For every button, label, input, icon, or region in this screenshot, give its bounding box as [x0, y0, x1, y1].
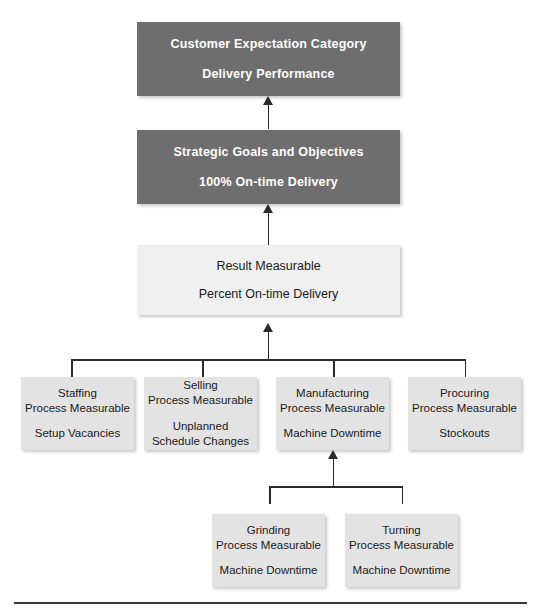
- node-process-procuring-type: Process Measurable: [412, 401, 517, 416]
- diagram-canvas: Customer Expectation Category Delivery P…: [0, 0, 541, 614]
- node-process-grinding[interactable]: Grinding Process Measurable Machine Down…: [212, 514, 325, 587]
- node-process-manufacturing-function: Manufacturing: [280, 386, 385, 401]
- node-process-staffing[interactable]: Staffing Process Measurable Setup Vacanc…: [21, 377, 134, 450]
- connector-drop-procuring: [465, 359, 467, 377]
- node-process-selling-measure-cont: Schedule Changes: [152, 434, 249, 449]
- node-process-procuring[interactable]: Procuring Process Measurable Stockouts: [408, 377, 521, 450]
- connector-line-processes-to-result: [268, 331, 270, 360]
- arrow-up-icon-subprocess-to-manufacturing: [328, 450, 338, 459]
- node-customer-expectation-label: Customer Expectation Category: [170, 36, 366, 53]
- node-result-measurable[interactable]: Result Measurable Percent On-time Delive…: [137, 245, 400, 315]
- connector-line-result-to-strategic: [268, 212, 270, 245]
- node-customer-expectation[interactable]: Customer Expectation Category Delivery P…: [137, 22, 400, 96]
- node-process-selling-type: Process Measurable: [148, 393, 253, 408]
- connector-drop-selling: [202, 359, 204, 377]
- node-strategic-goals-value: 100% On-time Delivery: [199, 174, 338, 191]
- node-process-turning-measure: Machine Downtime: [353, 563, 451, 578]
- connector-drop-grinding: [269, 486, 271, 504]
- arrow-up-icon-processes-to-result: [263, 323, 273, 332]
- connector-bus-subprocess-row: [269, 486, 403, 488]
- node-process-staffing-function: Staffing: [25, 386, 130, 401]
- node-process-manufacturing[interactable]: Manufacturing Process Measurable Machine…: [276, 377, 389, 450]
- node-process-manufacturing-type: Process Measurable: [280, 401, 385, 416]
- footer-divider: [14, 602, 527, 604]
- node-process-staffing-type: Process Measurable: [25, 401, 130, 416]
- node-process-selling[interactable]: Selling Process Measurable Unplanned Sch…: [144, 377, 257, 450]
- connector-line-strategic-to-customer: [268, 104, 270, 129]
- connector-drop-staffing: [71, 359, 73, 377]
- node-process-turning-function: Turning: [349, 523, 454, 538]
- node-process-grinding-type: Process Measurable: [216, 538, 321, 553]
- connector-drop-manufacturing: [333, 359, 335, 377]
- node-process-grinding-measure: Machine Downtime: [220, 563, 318, 578]
- node-process-procuring-function: Procuring: [412, 386, 517, 401]
- node-process-turning[interactable]: Turning Process Measurable Machine Downt…: [345, 514, 458, 587]
- node-process-selling-function: Selling: [148, 378, 253, 393]
- node-process-procuring-measure: Stockouts: [439, 426, 490, 441]
- node-result-measurable-value: Percent On-time Delivery: [199, 286, 339, 303]
- connector-bus-process-row: [71, 359, 466, 361]
- arrow-up-icon-strategic-to-customer: [263, 96, 273, 105]
- node-process-selling-measure: Unplanned: [152, 419, 249, 434]
- connector-line-subprocess-to-manufacturing: [333, 458, 335, 487]
- node-result-measurable-label: Result Measurable: [216, 258, 320, 275]
- node-customer-expectation-value: Delivery Performance: [202, 66, 335, 83]
- node-strategic-goals-label: Strategic Goals and Objectives: [173, 144, 363, 161]
- connector-drop-turning: [402, 486, 404, 504]
- node-process-manufacturing-measure: Machine Downtime: [284, 426, 382, 441]
- node-process-staffing-measure: Setup Vacancies: [35, 426, 120, 441]
- node-process-turning-type: Process Measurable: [349, 538, 454, 553]
- node-process-grinding-function: Grinding: [216, 523, 321, 538]
- arrow-up-icon-result-to-strategic: [263, 204, 273, 213]
- node-strategic-goals[interactable]: Strategic Goals and Objectives 100% On-t…: [137, 130, 400, 204]
